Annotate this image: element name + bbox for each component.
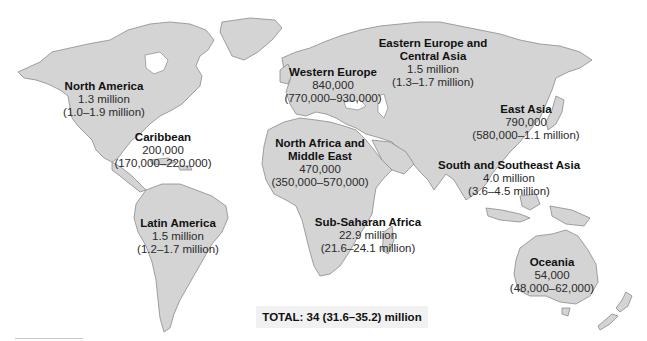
- landmass-new-zealand: [598, 292, 632, 330]
- region-label-south-southeast-asia: South and Southeast Asia 4.0 million (3.…: [438, 159, 580, 198]
- landmass-southeast-asia-islands: [486, 194, 590, 226]
- landmass-south-america: [134, 184, 228, 332]
- region-label-oceania: Oceania 54,000 (48,000–62,000): [510, 256, 594, 295]
- region-value: 790,000: [472, 116, 579, 129]
- region-value: 840,000: [284, 79, 381, 92]
- total-summary-box: TOTAL: 34 (31.6–35.2) million: [256, 306, 428, 328]
- region-range: (170,000–220,000): [114, 157, 211, 170]
- region-name: Eastern Europe and: [379, 37, 488, 50]
- world-map-figure: North America 1.3 million (1.0–1.9 milli…: [0, 0, 647, 341]
- landmass-tasmania: [562, 308, 570, 316]
- region-label-north-america: North America 1.3 million (1.0–1.9 milli…: [63, 80, 145, 119]
- decorative-rule: [15, 338, 83, 339]
- region-label-eastern-europe-central-asia: Eastern Europe and Central Asia 1.5 mill…: [379, 37, 488, 89]
- region-range: (770,000–930,000): [284, 92, 381, 105]
- region-name: Oceania: [510, 256, 594, 269]
- region-label-sub-saharan-africa: Sub-Saharan Africa 22.9 million (21.6–24…: [315, 216, 421, 255]
- region-label-north-africa-middle-east: North Africa and Middle East 470,000 (35…: [271, 137, 368, 189]
- region-range: (1.3–1.7 million): [379, 76, 488, 89]
- region-name: Sub-Saharan Africa: [315, 216, 421, 229]
- region-name: South and Southeast Asia: [438, 159, 580, 172]
- region-range: (1.2–1.7 million): [137, 243, 219, 256]
- region-name: North Africa and: [271, 137, 368, 150]
- landmass-greenland: [220, 18, 282, 60]
- region-name: North America: [63, 80, 145, 93]
- region-value: 22.9 million: [315, 229, 421, 242]
- region-range: (21.6–24.1 million): [315, 242, 421, 255]
- region-name: Latin America: [137, 217, 219, 230]
- region-value: 1.5 million: [137, 230, 219, 243]
- region-value: 470,000: [271, 163, 368, 176]
- region-value: 54,000: [510, 269, 594, 282]
- region-value: 1.3 million: [63, 93, 145, 106]
- region-range: (580,000–1.1 million): [472, 129, 579, 142]
- region-range: (350,000–570,000): [271, 176, 368, 189]
- region-label-east-asia: East Asia 790,000 (580,000–1.1 million): [472, 103, 579, 142]
- region-name-line2: Middle East: [271, 150, 368, 163]
- region-label-western-europe: Western Europe 840,000 (770,000–930,000): [284, 66, 381, 105]
- region-name: East Asia: [472, 103, 579, 116]
- region-label-latin-america: Latin America 1.5 million (1.2–1.7 milli…: [137, 217, 219, 256]
- region-name: Caribbean: [114, 131, 211, 144]
- region-name-line2: Central Asia: [379, 50, 488, 63]
- region-value: 1.5 million: [379, 63, 488, 76]
- region-name: Western Europe: [284, 66, 381, 79]
- region-value: 4.0 million: [438, 172, 580, 185]
- region-value: 200,000: [114, 144, 211, 157]
- region-range: (3.6–4.5 million): [438, 185, 580, 198]
- region-range: (48,000–62,000): [510, 282, 594, 295]
- region-label-caribbean: Caribbean 200,000 (170,000–220,000): [114, 131, 211, 170]
- region-range: (1.0–1.9 million): [63, 106, 145, 119]
